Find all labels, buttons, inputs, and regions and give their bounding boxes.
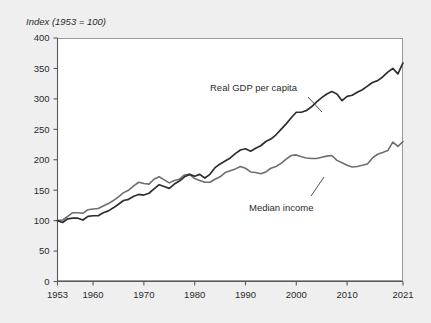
y-tick-label: 300 <box>34 93 50 104</box>
x-tick-label: 1980 <box>184 289 205 300</box>
y-tick-label: 200 <box>34 154 50 165</box>
y-tick-label: 100 <box>34 215 50 226</box>
y-tick-label: 150 <box>34 185 50 196</box>
y-tick-label: 250 <box>34 124 50 135</box>
y-tick-label: 400 <box>34 32 50 43</box>
y-tick-label: 0 <box>44 276 49 287</box>
x-tick-label: 2010 <box>337 289 358 300</box>
x-tick-label: 2000 <box>286 289 307 300</box>
chart-axis-title: Index (1953 = 100) <box>26 16 106 27</box>
x-tick-label: 2021 <box>392 289 413 300</box>
series-annotation-real-gdp: Real GDP per capita <box>210 82 298 93</box>
y-tick-label: 50 <box>39 245 50 256</box>
x-tick-label: 1960 <box>82 289 103 300</box>
x-tick-label: 1953 <box>47 289 68 300</box>
plot-area-background <box>57 38 403 281</box>
x-tick-label: 1990 <box>235 289 256 300</box>
chart-figure: Index (1953 = 100) 050100150200250300350… <box>0 0 431 323</box>
x-tick-label: 1970 <box>133 289 154 300</box>
series-annotation-median-income: Median income <box>249 202 313 213</box>
y-tick-label: 350 <box>34 63 50 74</box>
index-line-chart: Index (1953 = 100) 050100150200250300350… <box>0 0 431 323</box>
